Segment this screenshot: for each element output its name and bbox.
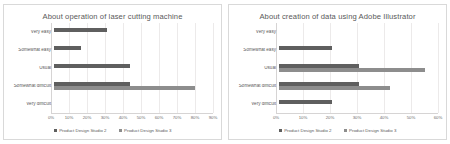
legend-label: Product Design Studio 2 xyxy=(284,128,331,133)
x-axis-tick: 10% xyxy=(299,115,308,120)
bar-group xyxy=(279,80,438,93)
legend-swatch-icon xyxy=(54,129,58,133)
x-axis-tick: 20% xyxy=(83,115,92,120)
legend-item[interactable]: Product Design Studio 2 xyxy=(279,128,332,133)
category-label: Very easy xyxy=(7,30,54,35)
bar-studio2[interactable] xyxy=(279,100,332,104)
chart-row: Very difficult xyxy=(232,98,438,111)
chart-row: Usual xyxy=(7,62,213,75)
bar-studio2[interactable] xyxy=(54,64,130,68)
x-axis-tick: 20% xyxy=(326,115,335,120)
chart-legend[interactable]: Product Design Studio 2Product Design St… xyxy=(229,126,446,139)
gridline xyxy=(213,23,214,113)
legend-item[interactable]: Product Design Studio 3 xyxy=(119,128,172,133)
bar-group xyxy=(54,80,213,93)
chart-row: Somewhat easy xyxy=(232,44,438,57)
x-axis-tick: 50% xyxy=(407,115,416,120)
bar-studio3[interactable] xyxy=(279,68,425,72)
chart-row: Very easy xyxy=(232,26,438,39)
bar-group xyxy=(54,98,213,111)
bar-group xyxy=(279,98,438,111)
plot-area: Very easySomewhat easyUsualSomewhat diff… xyxy=(229,23,446,126)
category-label: Usual xyxy=(232,66,279,71)
category-label: Somewhat easy xyxy=(7,48,54,53)
legend-swatch-icon xyxy=(279,129,283,133)
x-axis-tick: 10% xyxy=(65,115,74,120)
legend-item[interactable]: Product Design Studio 2 xyxy=(54,128,107,133)
x-axis: 0%10%20%30%40%50%60%70%80%90% xyxy=(51,113,213,126)
x-axis: 0%10%20%30%40%50%60% xyxy=(276,113,438,126)
chart-legend[interactable]: Product Design Studio 2Product Design St… xyxy=(4,126,221,139)
bar-studio3[interactable] xyxy=(54,86,195,90)
bar-group xyxy=(54,44,213,57)
bar-group xyxy=(279,44,438,57)
legend-label: Product Design Studio 3 xyxy=(124,128,171,133)
x-axis-tick: 80% xyxy=(191,115,200,120)
chart-row: Very easy xyxy=(7,26,213,39)
x-axis-tick: 0% xyxy=(273,115,279,120)
chart-row: Somewhat easy xyxy=(7,44,213,57)
legend-swatch-icon xyxy=(344,129,348,133)
legend-item[interactable]: Product Design Studio 3 xyxy=(344,128,397,133)
x-axis-tick: 60% xyxy=(155,115,164,120)
plot-rows: Very easySomewhat easyUsualSomewhat diff… xyxy=(232,23,438,113)
category-label: Very difficult xyxy=(232,102,279,107)
chart-row: Somewhat difficult xyxy=(232,80,438,93)
chart-card-laser-cutting[interactable]: About operation of laser cutting machine… xyxy=(3,4,222,140)
x-axis-tick: 50% xyxy=(137,115,146,120)
chart-sheet: About operation of laser cutting machine… xyxy=(0,0,450,144)
bar-group xyxy=(54,26,213,39)
x-axis-tick: 60% xyxy=(434,115,443,120)
category-label: Somewhat difficult xyxy=(7,84,54,89)
x-axis-tick: 0% xyxy=(48,115,54,120)
chart-row: Very difficult xyxy=(7,98,213,111)
category-label: Somewhat difficult xyxy=(232,84,279,89)
category-label: Somewhat easy xyxy=(232,48,279,53)
bar-studio3[interactable] xyxy=(279,86,390,90)
bar-group xyxy=(54,62,213,75)
x-axis-tick: 40% xyxy=(119,115,128,120)
chart-title: About creation of data using Adobe Illus… xyxy=(229,5,446,23)
category-label: Usual xyxy=(7,66,54,71)
chart-row: Usual xyxy=(232,62,438,75)
legend-label: Product Design Studio 2 xyxy=(59,128,106,133)
x-axis-tick: 70% xyxy=(173,115,182,120)
gridline xyxy=(438,23,439,113)
legend-label: Product Design Studio 3 xyxy=(349,128,396,133)
plot-rows: Very easySomewhat easyUsualSomewhat diff… xyxy=(7,23,213,113)
bar-group xyxy=(279,26,438,39)
chart-row: Somewhat difficult xyxy=(7,80,213,93)
plot-area: Very easySomewhat easyUsualSomewhat diff… xyxy=(4,23,221,126)
x-axis-tick: 90% xyxy=(209,115,218,120)
x-axis-tick: 40% xyxy=(380,115,389,120)
bar-group xyxy=(279,62,438,75)
bar-studio2[interactable] xyxy=(54,46,81,50)
x-axis-tick: 30% xyxy=(101,115,110,120)
chart-card-adobe-illustrator[interactable]: About creation of data using Adobe Illus… xyxy=(228,4,447,140)
legend-swatch-icon xyxy=(119,129,123,133)
bar-studio2[interactable] xyxy=(279,46,332,50)
category-label: Very difficult xyxy=(7,102,54,107)
x-axis-tick: 30% xyxy=(353,115,362,120)
chart-title: About operation of laser cutting machine xyxy=(4,5,221,23)
category-label: Very easy xyxy=(232,30,279,35)
bar-studio2[interactable] xyxy=(54,28,107,32)
